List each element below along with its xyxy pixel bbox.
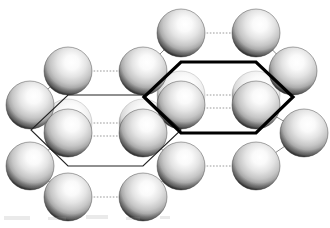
scan-artifact [86, 215, 108, 219]
sphere-layer-front [6, 9, 328, 221]
scan-artifact [48, 217, 66, 220]
sphere-atom-row2-right [269, 47, 317, 95]
lattice-figure [0, 0, 330, 228]
sphere-atom-bottom-left [44, 173, 92, 221]
sphere-atom-row3-right [232, 81, 280, 129]
sphere-atom-bottom-right [119, 173, 167, 221]
sphere-atom-row2-midleft [119, 47, 167, 95]
sphere-atom-top-right [232, 9, 280, 57]
scan-artifact [160, 216, 170, 219]
sphere-atom-row5-right [232, 142, 280, 190]
sphere-atom-top-left [157, 9, 205, 57]
scan-artifact [4, 216, 30, 220]
sphere-atom-row2-left [44, 47, 92, 95]
scan-artifact [126, 217, 140, 220]
hexagonal-lattice-diagram [0, 0, 330, 228]
sphere-atom-row5-farleft [6, 142, 54, 190]
sphere-atom-row4-farright [280, 109, 328, 157]
sphere-atom-row5-left [157, 142, 205, 190]
